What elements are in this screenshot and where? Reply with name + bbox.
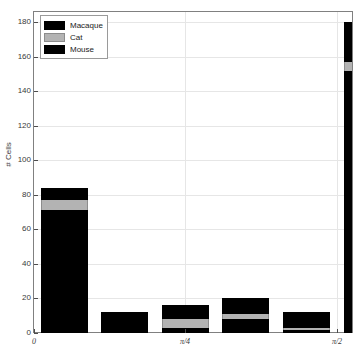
bar-segment-cat (344, 62, 352, 71)
y-tick-label: 80 (22, 191, 31, 199)
bar-segment-macaque (162, 305, 209, 319)
legend-item-mouse: Mouse (44, 43, 103, 55)
bar-segment-cat (41, 200, 88, 210)
bar-segment-macaque (344, 22, 352, 62)
bar-stack (101, 12, 148, 333)
y-tick-label: 160 (18, 53, 31, 61)
y-tick-label: 60 (22, 225, 31, 233)
bar-segment-mouse (344, 71, 352, 333)
y-tick-label: 180 (18, 18, 31, 26)
bar-segment-mouse (283, 330, 330, 333)
y-tick-mark (34, 298, 38, 299)
y-tick-label: 120 (18, 122, 31, 130)
legend-label-macaque: Macaque (70, 21, 103, 30)
bar-segment-macaque (222, 298, 269, 314)
bar-segment-cat (283, 328, 330, 330)
chart-legend: Macaque Cat Mouse (40, 15, 108, 59)
x-tick-mark (185, 329, 186, 333)
bar-segment-mouse (222, 319, 269, 333)
y-tick-mark (34, 333, 38, 334)
y-tick-label: 140 (18, 87, 31, 95)
legend-item-cat: Cat (44, 31, 103, 43)
y-tick-mark (34, 160, 38, 161)
bar-segment-cat (162, 319, 209, 328)
x-tick-label: 0 (32, 337, 36, 346)
legend-label-mouse: Mouse (70, 45, 94, 54)
y-tick-mark (34, 195, 38, 196)
bar-stack (41, 12, 88, 333)
bar-segment-macaque (41, 188, 88, 200)
bar-segment-macaque (283, 312, 330, 328)
y-tick-label: 100 (18, 156, 31, 164)
y-axis-title: # Cells (4, 125, 13, 185)
y-tick-mark (34, 126, 38, 127)
legend-swatch-cat (44, 33, 65, 42)
y-tick-label: 0 (27, 329, 31, 337)
legend-item-macaque: Macaque (44, 19, 103, 31)
y-tick-label: 40 (22, 260, 31, 268)
plot-area (34, 12, 352, 333)
legend-label-cat: Cat (70, 33, 82, 42)
legend-swatch-mouse (44, 45, 65, 54)
bar-segment-cat (222, 314, 269, 319)
gridline-vertical (337, 12, 338, 333)
x-tick-mark (34, 329, 35, 333)
bar-segment-mouse (101, 314, 148, 333)
bar-stack (162, 12, 209, 333)
bar-stack (344, 12, 352, 333)
y-tick-mark (34, 57, 38, 58)
figure-canvas: # Cells 0204060801001201401601800π/4π/2 … (0, 0, 358, 356)
y-tick-label: 20 (22, 294, 31, 302)
y-tick-mark (34, 264, 38, 265)
x-tick-label: π/4 (180, 337, 190, 346)
y-tick-mark (34, 22, 38, 23)
y-tick-mark (34, 229, 38, 230)
x-tick-label: π/2 (332, 337, 342, 346)
bar-stack (222, 12, 269, 333)
x-tick-mark (337, 329, 338, 333)
y-tick-mark (34, 91, 38, 92)
legend-swatch-macaque (44, 21, 65, 30)
bar-stack (283, 12, 330, 333)
bar-segment-mouse (41, 210, 88, 333)
bar-segment-macaque (101, 312, 148, 314)
